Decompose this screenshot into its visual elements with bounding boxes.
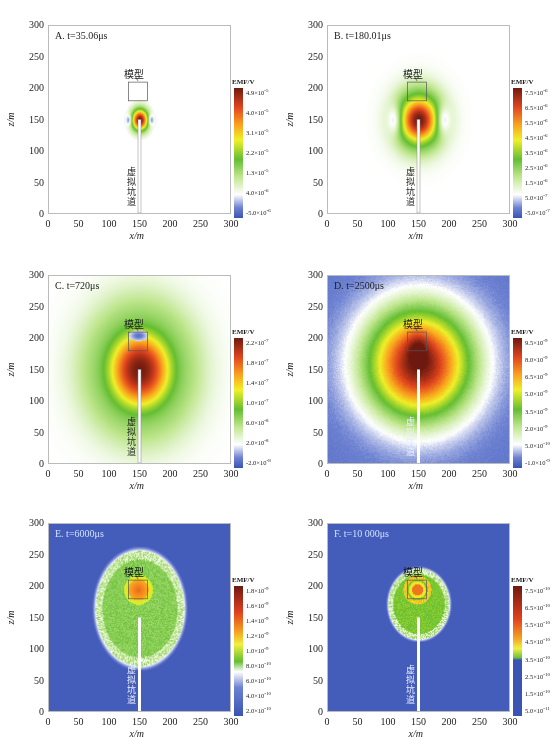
colorbar <box>513 338 522 468</box>
y-tick-label: 200 <box>20 82 44 93</box>
x-tick-label: 250 <box>186 716 216 727</box>
x-tick-label: 100 <box>94 468 124 479</box>
y-tick-label: 150 <box>299 114 323 125</box>
plot-area: A. t=35.06μs <box>48 25 231 214</box>
colorbar-tick-label: 2.0×10-10 <box>246 706 271 714</box>
colorbar-tick-label: 6.0×10-8 <box>246 418 268 426</box>
x-tick-label: 100 <box>373 218 403 229</box>
colorbar-tick-label: 5.5×10-10 <box>525 620 550 628</box>
model-label: 模型 <box>403 316 423 331</box>
colorbar-tick-label: 2.5×10-6 <box>525 163 547 171</box>
colorbar-tick-label: 4.0×10-5 <box>246 108 268 116</box>
colorbar-tick-label: 9.5×10-9 <box>525 338 547 346</box>
tunnel-label: 虚拟坑道 <box>126 665 139 705</box>
colorbar-tick-label: 4.0×10-6 <box>246 188 268 196</box>
panel-a: A. t=35.06μs模型虚拟坑道0501001502002503000501… <box>0 0 279 248</box>
panel-title: A. t=35.06μs <box>55 30 107 41</box>
y-tick-label: 200 <box>299 332 323 343</box>
y-tick-label: 50 <box>20 675 44 686</box>
colorbar <box>513 88 522 218</box>
y-tick-label: 300 <box>299 269 323 280</box>
x-tick-label: 0 <box>33 716 63 727</box>
colorbar-tick-label: 3.5×10-10 <box>525 655 550 663</box>
x-tick-label: 200 <box>155 218 185 229</box>
y-tick-label: 150 <box>299 364 323 375</box>
y-tick-label: 150 <box>20 114 44 125</box>
x-tick-label: 50 <box>343 468 373 479</box>
colorbar-tick-label: 5.0×10-10 <box>525 441 550 449</box>
colorbar-title: EMF/V <box>232 576 255 584</box>
colorbar-tick-label: 1.8×10-9 <box>246 586 268 594</box>
colorbar-tick-label: 2.0×10-9 <box>525 424 547 432</box>
x-tick-label: 0 <box>33 468 63 479</box>
x-tick-label: 150 <box>404 716 434 727</box>
tunnel-label: 虚拟坑道 <box>405 417 418 457</box>
panel-title: F. t=10 000μs <box>334 528 389 539</box>
y-axis-label: z/m <box>284 362 295 376</box>
x-tick-label: 50 <box>343 218 373 229</box>
model-label: 模型 <box>403 564 423 579</box>
y-tick-label: 100 <box>299 145 323 156</box>
panel-e: E. t=6000μs模型虚拟坑道05010015020025030005010… <box>0 498 279 746</box>
plot-overlay <box>328 26 509 213</box>
y-tick-label: 300 <box>299 19 323 30</box>
x-tick-label: 100 <box>94 218 124 229</box>
colorbar-tick-label: 2.5×10-10 <box>525 672 550 680</box>
colorbar-tick-label: 6.5×10-6 <box>525 103 547 111</box>
x-tick-label: 250 <box>186 468 216 479</box>
colorbar-tick-label: 3.5×10-9 <box>525 407 547 415</box>
x-tick-label: 200 <box>434 468 464 479</box>
model-box <box>408 580 427 599</box>
colorbar-tick-label: 5.0×10-7 <box>525 193 547 201</box>
y-axis-label: z/m <box>5 112 16 126</box>
colorbar <box>513 586 522 716</box>
x-axis-label: x/m <box>130 230 144 241</box>
model-box <box>408 82 427 101</box>
colorbar-tick-label: 5.0×10-11 <box>525 706 550 714</box>
x-tick-label: 300 <box>216 716 246 727</box>
y-tick-label: 300 <box>299 517 323 528</box>
x-axis-label: x/m <box>409 230 423 241</box>
x-tick-label: 150 <box>125 716 155 727</box>
colorbar <box>234 338 243 468</box>
x-tick-label: 150 <box>404 468 434 479</box>
x-tick-label: 200 <box>434 716 464 727</box>
y-tick-label: 250 <box>20 51 44 62</box>
x-tick-label: 200 <box>155 468 185 479</box>
colorbar-tick-label: -5.0×10-7 <box>525 208 550 216</box>
colorbar-tick-label: 1.6×10-9 <box>246 601 268 609</box>
x-tick-label: 0 <box>312 716 342 727</box>
x-tick-label: 300 <box>216 468 246 479</box>
x-tick-label: 200 <box>155 716 185 727</box>
x-tick-label: 300 <box>495 716 525 727</box>
colorbar-tick-label: 8.0×10-10 <box>246 661 271 669</box>
x-axis-label: x/m <box>409 728 423 739</box>
plot-overlay <box>49 276 230 463</box>
y-tick-label: 200 <box>20 580 44 591</box>
colorbar-tick-label: 1.2×10-9 <box>246 631 268 639</box>
x-tick-label: 250 <box>465 468 495 479</box>
y-tick-label: 200 <box>20 332 44 343</box>
colorbar <box>234 88 243 218</box>
x-tick-label: 250 <box>186 218 216 229</box>
x-tick-label: 0 <box>33 218 63 229</box>
y-tick-label: 250 <box>20 549 44 560</box>
x-tick-label: 200 <box>434 218 464 229</box>
x-tick-label: 100 <box>373 716 403 727</box>
model-label: 模型 <box>124 564 144 579</box>
x-tick-label: 0 <box>312 468 342 479</box>
colorbar-tick-label: 3.1×10-5 <box>246 128 268 136</box>
y-tick-label: 250 <box>299 549 323 560</box>
y-axis-label: z/m <box>5 362 16 376</box>
x-tick-label: 150 <box>125 218 155 229</box>
x-tick-label: 0 <box>312 218 342 229</box>
y-axis-label: z/m <box>5 610 16 624</box>
y-tick-label: 250 <box>20 301 44 312</box>
y-tick-label: 100 <box>20 643 44 654</box>
colorbar-tick-label: 8.0×10-9 <box>525 355 547 363</box>
y-tick-label: 100 <box>20 395 44 406</box>
colorbar-tick-label: 1.5×10-10 <box>525 689 550 697</box>
y-tick-label: 150 <box>20 612 44 623</box>
colorbar-tick-label: 4.0×10-10 <box>246 691 271 699</box>
y-tick-label: 100 <box>20 145 44 156</box>
